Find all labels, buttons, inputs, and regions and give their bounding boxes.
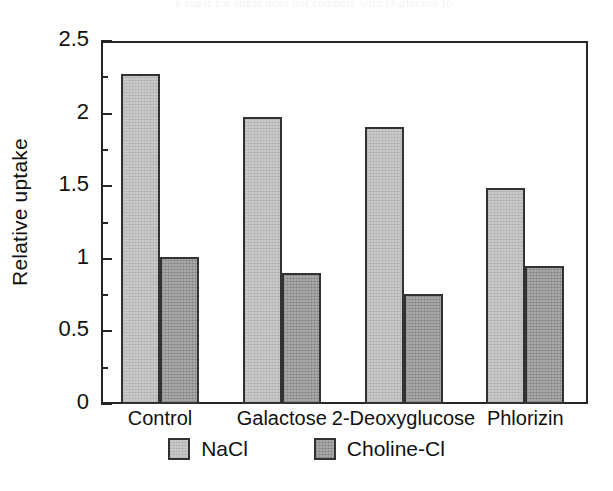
y-axis-tick-label: 0.5: [15, 316, 89, 342]
bar-control-nacl: [121, 74, 160, 404]
bar-galactose-choline-cl: [282, 273, 321, 404]
legend-entry-nacl[interactable]: NaCl: [168, 437, 248, 461]
y-axis-tick-label: 1: [15, 244, 89, 270]
y-axis-tick-minor: [101, 149, 108, 151]
y-axis-tick-label: 1.5: [15, 171, 89, 197]
legend-swatch-icon: [168, 438, 190, 460]
x-axis-tick-label: Phlorizin: [425, 407, 613, 430]
legend-swatch-icon: [314, 438, 336, 460]
y-axis-tick-minor: [101, 294, 108, 296]
y-axis-tick-major: [101, 113, 112, 115]
y-axis-tick-label: 2: [15, 99, 89, 125]
bar-control-choline-cl: [160, 257, 199, 404]
bar-2-deoxyglucose-choline-cl: [404, 294, 443, 404]
legend-label: Choline-Cl: [347, 437, 445, 461]
y-axis-tick-major: [101, 185, 112, 187]
y-axis-title: Relative uptake: [8, 2, 32, 422]
y-axis-tick-minor: [101, 222, 108, 224]
bar-phlorizin-choline-cl: [525, 266, 564, 404]
bar-2-deoxyglucose-nacl: [365, 127, 404, 404]
y-axis-tick-major: [101, 258, 112, 260]
legend-label: NaCl: [201, 437, 248, 461]
y-axis-tick-minor: [101, 76, 108, 78]
chart-legend: NaClCholine-Cl: [0, 437, 613, 461]
y-axis-tick-label: 2.5: [15, 26, 89, 52]
y-axis-tick-minor: [101, 367, 108, 369]
bar-phlorizin-nacl: [486, 188, 525, 404]
y-axis-tick-major: [101, 330, 112, 332]
y-axis-tick-major: [101, 40, 112, 42]
legend-entry-choline-cl[interactable]: Choline-Cl: [314, 437, 445, 461]
bar-galactose-nacl: [243, 117, 282, 404]
y-axis-tick-major: [101, 403, 112, 405]
bar-chart-figure: Relative uptake 00.511.522.5 ControlGala…: [0, 0, 613, 491]
